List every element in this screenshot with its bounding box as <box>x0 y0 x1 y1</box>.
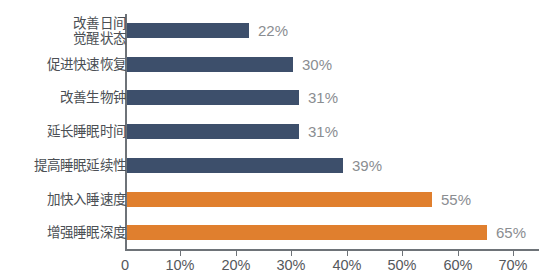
x-axis-tick-label: 0 <box>121 256 129 274</box>
category-label: 促进快速恢复 <box>18 57 126 73</box>
category-label-line-1: 改善日间 <box>18 16 126 31</box>
bar-row: 加快入睡速度55% <box>0 183 545 217</box>
bar <box>127 124 299 139</box>
bar-row: 改善日间觉醒状态22% <box>0 14 545 48</box>
category-label: 改善日间觉醒状态 <box>18 16 126 46</box>
category-label-line-2: 觉醒状态 <box>18 31 126 46</box>
bar <box>127 57 293 72</box>
category-label: 加快入睡速度 <box>18 192 126 208</box>
bar <box>127 225 487 240</box>
bar-value-label: 22% <box>258 22 288 39</box>
bar-row: 促进快速恢复30% <box>0 48 545 82</box>
x-axis-tick-label: 20% <box>221 256 250 274</box>
bar-value-label: 39% <box>352 157 382 174</box>
bar-row: 延长睡眠时间31% <box>0 115 545 149</box>
bar-row: 增强睡眠深度65% <box>0 216 545 250</box>
x-axis-tick-label: 30% <box>276 256 305 274</box>
x-axis-tick-label: 10% <box>165 256 194 274</box>
bar <box>127 90 299 105</box>
x-axis-tick-label: 40% <box>332 256 361 274</box>
x-axis-tick-label: 70% <box>498 256 527 274</box>
bar-value-label: 30% <box>302 56 332 73</box>
x-axis-tick-label: 60% <box>443 256 472 274</box>
bar <box>127 192 432 207</box>
horizontal-bar-chart: 改善日间觉醒状态22%促进快速恢复30%改善生物钟31%延长睡眠时间31%提高睡… <box>0 0 545 278</box>
bar-value-label: 31% <box>308 89 338 106</box>
category-label: 改善生物钟 <box>18 90 126 106</box>
bar-row: 提高睡眠延续性39% <box>0 149 545 183</box>
bar-value-label: 31% <box>308 123 338 140</box>
bar <box>127 23 249 38</box>
bar-value-label: 55% <box>441 191 471 208</box>
bar-value-label: 65% <box>496 224 526 241</box>
category-label: 提高睡眠延续性 <box>18 158 126 174</box>
bar <box>127 158 343 173</box>
category-label: 延长睡眠时间 <box>18 124 126 140</box>
bar-row: 改善生物钟31% <box>0 81 545 115</box>
category-label: 增强睡眠深度 <box>18 225 126 241</box>
x-axis-tick-label: 50% <box>387 256 416 274</box>
